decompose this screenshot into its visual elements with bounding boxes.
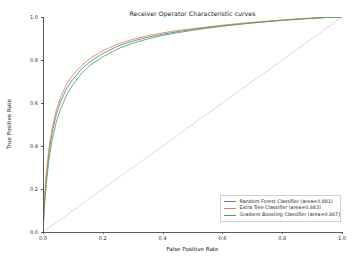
y-tick-label: 0.2 — [30, 186, 38, 192]
chart-legend: Random Forest Classifier (area=0.881)Ext… — [220, 195, 341, 222]
legend-item[interactable]: Gradient Boosting Classifier (area=0.867… — [224, 212, 337, 219]
roc-chart-figure: Receiver Operator Characteristic curves … — [0, 0, 363, 261]
legend-item-label: Gradient Boosting Classifier (area=0.867… — [240, 212, 341, 219]
x-tick-label: 0.8 — [278, 235, 286, 241]
y-tick-mark — [41, 232, 43, 233]
x-tick-mark — [342, 232, 343, 234]
y-tick-label: 0.0 — [30, 229, 38, 235]
x-tick-mark — [163, 232, 164, 234]
y-axis-label: True Positive Rate — [6, 99, 12, 149]
legend-color-swatch — [224, 201, 236, 202]
x-axis-spine — [43, 232, 342, 233]
legend-item-label: Extra Tree Classifier (area=0.883) — [240, 205, 321, 212]
x-tick-label: 0.4 — [159, 235, 167, 241]
y-tick-mark — [41, 189, 43, 190]
x-tick-mark — [43, 232, 44, 234]
y-tick-label: 0.4 — [30, 143, 38, 149]
y-tick-mark — [41, 146, 43, 147]
x-axis-label: False Positive Rate — [43, 246, 342, 252]
legend-item[interactable]: Extra Tree Classifier (area=0.883) — [224, 205, 337, 212]
legend-color-swatch — [224, 208, 236, 209]
x-tick-label: 0.0 — [39, 235, 47, 241]
x-tick-mark — [282, 232, 283, 234]
y-tick-mark — [41, 103, 43, 104]
y-tick-label: 1.0 — [30, 14, 38, 20]
x-tick-label: 1.0 — [338, 235, 346, 241]
chart-title: Receiver Operator Characteristic curves — [43, 10, 342, 17]
x-tick-label: 0.6 — [218, 235, 226, 241]
y-tick-mark — [41, 60, 43, 61]
x-tick-label: 0.2 — [99, 235, 107, 241]
x-tick-mark — [103, 232, 104, 234]
x-tick-mark — [222, 232, 223, 234]
y-tick-mark — [41, 17, 43, 18]
y-tick-label: 0.6 — [30, 100, 38, 106]
legend-color-swatch — [224, 215, 236, 216]
legend-item[interactable]: Random Forest Classifier (area=0.881) — [224, 199, 337, 206]
y-tick-label: 0.8 — [30, 57, 38, 63]
legend-item-label: Random Forest Classifier (area=0.881) — [240, 199, 333, 206]
y-axis-spine — [43, 17, 44, 232]
